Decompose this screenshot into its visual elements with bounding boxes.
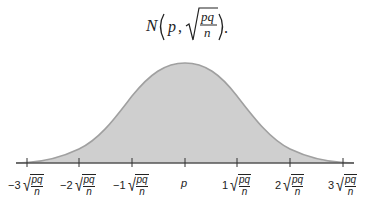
tick-label-minus-2sd: −2 √pqn bbox=[60, 172, 96, 198]
tick-label-plus-2sd: 2 √pqn bbox=[275, 172, 304, 198]
tick-label-mean: p bbox=[181, 170, 187, 196]
tick-label-minus-3sd: −3 √pqn bbox=[8, 172, 44, 198]
tick-label-plus-1sd: 1 √pqn bbox=[222, 172, 251, 198]
tick-label-minus-1sd: −1 √pqn bbox=[113, 172, 149, 198]
tick-label-plus-3sd: 3 √pqn bbox=[328, 172, 357, 198]
normal-curve-area bbox=[16, 63, 354, 163]
